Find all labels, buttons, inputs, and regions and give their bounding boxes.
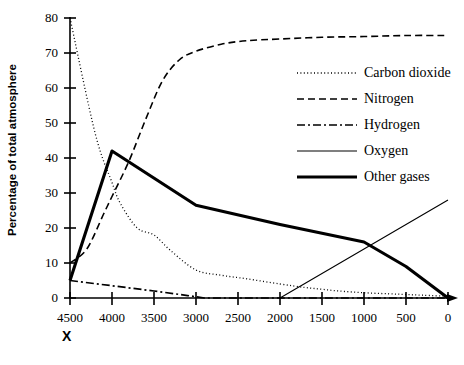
x-tick-label: 4000 bbox=[90, 310, 134, 326]
legend-label: Oxygen bbox=[364, 143, 408, 159]
legend-item[interactable]: Hydrogen bbox=[296, 112, 451, 138]
legend-swatch-hydrogen bbox=[296, 118, 358, 132]
y-tick-label: 0 bbox=[26, 290, 58, 306]
series-line-hydrogen bbox=[70, 281, 448, 299]
legend-swatch-other-gases bbox=[296, 170, 358, 184]
y-tick-label: 10 bbox=[26, 255, 58, 271]
legend-label: Other gases bbox=[364, 169, 430, 185]
legend-swatch-carbon-dioxide bbox=[296, 66, 358, 80]
x-tick-label: 1500 bbox=[300, 310, 344, 326]
x-tick-label: 500 bbox=[384, 310, 428, 326]
x-tick-label: 2000 bbox=[258, 310, 302, 326]
x-axis-title: X bbox=[62, 328, 71, 344]
y-tick-label: 80 bbox=[26, 10, 58, 26]
x-tick-label: 0 bbox=[426, 310, 464, 326]
x-tick-label: 3000 bbox=[174, 310, 218, 326]
x-tick-label: 1000 bbox=[342, 310, 386, 326]
legend-label: Hydrogen bbox=[364, 117, 420, 133]
y-tick-label: 70 bbox=[26, 45, 58, 61]
legend-label: Carbon dioxide bbox=[364, 65, 451, 81]
x-tick-label: 4500 bbox=[48, 310, 92, 326]
y-tick-label: 40 bbox=[26, 150, 58, 166]
legend-item[interactable]: Nitrogen bbox=[296, 86, 451, 112]
legend-item[interactable]: Carbon dioxide bbox=[296, 60, 451, 86]
legend-item[interactable]: Other gases bbox=[296, 164, 451, 190]
chart-container: Percentage of total atmosphere 010203040… bbox=[0, 0, 464, 365]
x-tick-label: 3500 bbox=[132, 310, 176, 326]
legend-item[interactable]: Oxygen bbox=[296, 138, 451, 164]
y-tick-label: 30 bbox=[26, 185, 58, 201]
series-line-oxygen bbox=[280, 200, 448, 298]
y-tick-label: 50 bbox=[26, 115, 58, 131]
x-tick-label: 2500 bbox=[216, 310, 260, 326]
legend: Carbon dioxideNitrogenHydrogenOxygenOthe… bbox=[296, 60, 451, 190]
legend-swatch-oxygen bbox=[296, 144, 358, 158]
legend-swatch-nitrogen bbox=[296, 92, 358, 106]
y-tick-label: 20 bbox=[26, 220, 58, 236]
y-tick-label: 60 bbox=[26, 80, 58, 96]
legend-label: Nitrogen bbox=[364, 91, 414, 107]
